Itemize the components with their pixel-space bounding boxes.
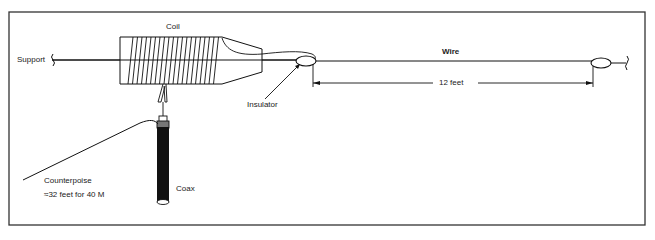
- alligator-clip: [158, 84, 167, 116]
- wire-label: Wire: [442, 47, 459, 56]
- dimension-arrow-left: [313, 81, 320, 85]
- insulator-right: [591, 58, 611, 68]
- coil-form: [52, 37, 298, 84]
- coax-cable: [157, 116, 169, 205]
- insulator-label: Insulator: [247, 100, 278, 109]
- counterpoise-wire: [23, 120, 158, 180]
- dimension-arrow-right: [586, 81, 593, 85]
- length-label: 12 feet: [439, 78, 463, 87]
- support-label: Support: [17, 55, 45, 64]
- counterpoise-label: Counterpoise: [44, 176, 92, 185]
- coil-label: Coil: [166, 22, 180, 31]
- counterpoise-length-label: ≈32 feet for 40 M: [44, 190, 104, 199]
- coax-label: Coax: [176, 184, 195, 193]
- insulator-pointer: [265, 66, 298, 99]
